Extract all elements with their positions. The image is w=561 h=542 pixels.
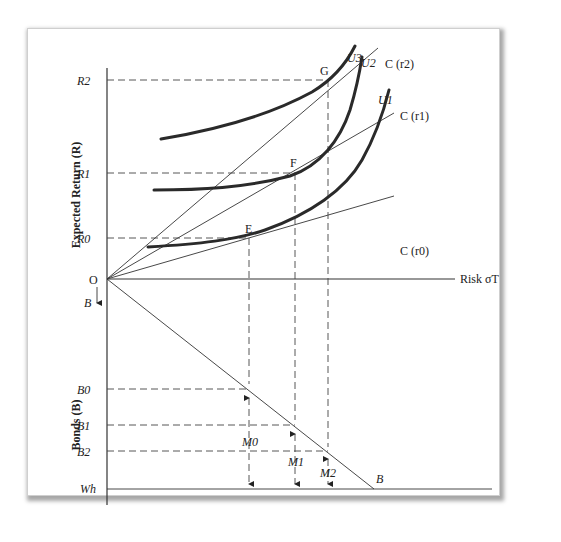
label-u1: U1 xyxy=(378,93,393,107)
label-r2: R2 xyxy=(76,74,90,88)
label-b1: B1 xyxy=(77,419,90,433)
indifference-curve-u1 xyxy=(148,90,389,247)
label-b-arrow: B xyxy=(84,296,92,310)
label-b0: B0 xyxy=(77,383,90,397)
label-m2: M2 xyxy=(319,466,336,480)
constraint-line-r0 xyxy=(107,196,394,279)
label-r0: R0 xyxy=(76,232,90,246)
label-c-r0: C (r0) xyxy=(400,244,429,258)
label-origin: O xyxy=(89,273,98,287)
label-b2: B2 xyxy=(77,445,90,459)
label-wh: Wh xyxy=(80,482,96,496)
label-c-r1: C (r1) xyxy=(400,109,429,123)
point-f: F xyxy=(290,156,297,170)
label-b-end: B xyxy=(376,472,384,486)
portfolio-diagram: Expected Return (R) Bonds (B) R2 R1 R0 O… xyxy=(0,0,561,542)
constraint-line-r2 xyxy=(107,48,378,279)
label-u2: U2 xyxy=(361,56,376,70)
label-r1: R1 xyxy=(76,167,90,181)
budget-line xyxy=(107,279,374,489)
constraint-line-r1 xyxy=(107,113,394,279)
point-g: G xyxy=(320,64,329,78)
label-risk-axis: Risk σT xyxy=(460,272,499,286)
label-u3: U3 xyxy=(347,51,362,65)
label-m1: M1 xyxy=(287,455,304,469)
label-m0: M0 xyxy=(241,435,258,449)
label-c-r2: C (r2) xyxy=(385,57,414,71)
point-e: E xyxy=(245,222,252,236)
